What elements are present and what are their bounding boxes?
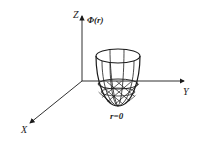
y-axis-label: Y xyxy=(183,86,190,97)
bowl-meridians xyxy=(102,49,134,106)
z-axis-label: Z xyxy=(73,9,79,20)
x-axis-label: X xyxy=(20,124,28,135)
paraboloid-diagram: Z Φ(r) Y X r=0 xyxy=(0,0,202,143)
x-axis xyxy=(30,81,82,123)
bowl-rim xyxy=(96,49,140,63)
function-label: Φ(r) xyxy=(87,15,104,25)
origin-label: r=0 xyxy=(110,111,124,121)
